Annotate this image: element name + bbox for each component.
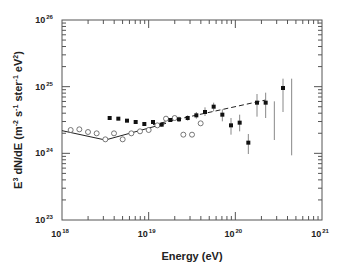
open-circle-point xyxy=(190,132,195,137)
open-circle-point xyxy=(86,130,91,135)
open-circle-point xyxy=(129,131,134,136)
open-circle-point xyxy=(164,116,169,121)
filled-square-point xyxy=(194,113,198,117)
open-circle-point xyxy=(94,131,99,136)
open-circle-point xyxy=(77,127,82,132)
filled-square-point xyxy=(134,120,138,124)
filled-square-point xyxy=(177,117,181,121)
filled-square-point xyxy=(229,123,233,127)
filled-square-point xyxy=(151,120,155,124)
filled-square-point xyxy=(186,116,190,120)
open-circle-point xyxy=(155,123,160,128)
filled-square-point xyxy=(108,116,112,120)
svg-text:E3 dN/dE (m-2 s-1 ster-1 eV2): E3 dN/dE (m-2 s-1 ster-1 eV2) xyxy=(12,51,24,189)
x-axis-title: Energy (eV) xyxy=(161,250,222,262)
open-circle-point xyxy=(198,121,203,126)
open-circle-point xyxy=(68,128,73,133)
filled-square-point xyxy=(264,101,268,105)
y-axis-title: E3 dN/dE (m-2 s-1 ster-1 eV2) xyxy=(12,51,24,189)
open-circle-point xyxy=(138,129,143,134)
filled-square-point xyxy=(246,141,250,145)
filled-square-point xyxy=(203,110,207,114)
filled-square-point xyxy=(160,123,164,127)
filled-square-point xyxy=(142,122,146,126)
open-circle-point xyxy=(120,137,125,142)
open-circle-point xyxy=(103,137,108,142)
filled-square-point xyxy=(116,117,120,121)
open-circle-point xyxy=(172,116,177,121)
filled-square-point xyxy=(281,86,285,90)
chart: 10181019102010211023102410251026 Energy … xyxy=(0,0,353,271)
open-circle-point xyxy=(112,131,117,136)
filled-square-point xyxy=(255,101,259,105)
open-circle-point xyxy=(146,128,151,133)
open-circle-point xyxy=(181,132,186,137)
filled-square-point xyxy=(238,121,242,125)
filled-square-point xyxy=(220,113,224,117)
filled-square-point xyxy=(168,118,172,122)
filled-square-point xyxy=(212,105,216,109)
filled-square-point xyxy=(125,119,129,123)
